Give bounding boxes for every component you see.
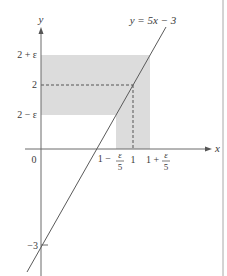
x-axis-label: x — [214, 142, 220, 154]
x-tick-left-frac-den: 5 — [118, 162, 123, 172]
x-tick-left-prefix: 1 − — [98, 153, 112, 164]
origin-label: 0 — [32, 154, 37, 165]
epsilon-delta-figure: y = 5x − 3 y x 0 2 + ε 2 2 − ε −3 1 − ε … — [0, 0, 227, 276]
y-axis-label: y — [38, 13, 44, 25]
y-tick-label-2-minus-eps: 2 − ε — [17, 109, 37, 120]
x-axis-arrow-icon — [205, 147, 212, 152]
x-tick-left-frac-num: ε — [118, 150, 122, 160]
x-tick-right-frac-num: ε — [164, 150, 168, 160]
equation-label: y = 5x − 3 — [129, 14, 177, 26]
y-axis-arrow-icon — [39, 27, 44, 34]
y-tick-label-minus3: −3 — [27, 240, 38, 251]
y-tick-label-2-plus-eps: 2 + ε — [17, 49, 37, 60]
x-tick-right-prefix: 1 + — [146, 154, 160, 165]
x-tick-label-1: 1 — [131, 154, 136, 165]
y-tick-label-2: 2 — [32, 79, 37, 90]
x-tick-right-frac-den: 5 — [164, 162, 169, 172]
